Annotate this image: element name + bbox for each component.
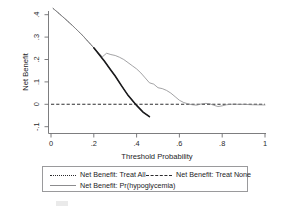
x-tick-label-1: .2 <box>91 139 97 148</box>
x-tick-label-5: 1 <box>263 139 267 148</box>
y-axis-title: Net Benefit <box>21 52 30 90</box>
y-tick-label-2: .2 <box>32 56 41 62</box>
x-tick-label-4: .8 <box>219 139 225 148</box>
x-tick-label-3: .6 <box>176 139 182 148</box>
data-series-group <box>51 8 265 116</box>
legend-label-treat-none: Net Benefit: Treat None <box>176 171 251 179</box>
y-tick-label-5: -.1 <box>32 122 41 131</box>
legend-key-dashed-icon <box>146 172 172 179</box>
legend-key-dotted-icon <box>50 172 76 179</box>
decision-curve-figure: .4 .3 .2 .1 0 -.1 Net Benefit 0 .2 .4 .6… <box>0 0 284 209</box>
axes-frame <box>49 11 267 134</box>
x-axis-tick-labels: 0 .2 .4 .6 .8 1 <box>49 139 267 148</box>
y-tick-label-4: 0 <box>32 102 41 106</box>
legend-item-model: Net Benefit: Pr(hypoglycemia) <box>50 180 175 191</box>
legend-label-model: Net Benefit: Pr(hypoglycemia) <box>80 182 175 190</box>
y-tick-label-3: .1 <box>32 79 41 85</box>
y-axis-ticks <box>45 15 49 127</box>
legend-item-treat-all: Net Benefit: Treat All <box>50 170 146 181</box>
x-tick-label-2: .4 <box>134 139 140 148</box>
series-model-line <box>53 8 265 106</box>
legend: Net Benefit: Treat All Net Benefit: Trea… <box>42 166 248 192</box>
legend-label-treat-all: Net Benefit: Treat All <box>80 171 146 179</box>
caption-strip <box>56 199 242 208</box>
x-tick-label-0: 0 <box>49 139 53 148</box>
x-axis-title: Threshold Probability <box>121 152 193 161</box>
caption-swatch <box>56 201 68 206</box>
y-tick-label-1: .3 <box>32 34 41 40</box>
y-axis-tick-labels: .4 .3 .2 .1 0 -.1 <box>32 12 41 131</box>
legend-key-solid-icon <box>50 182 76 189</box>
y-tick-label-0: .4 <box>32 12 41 18</box>
legend-item-treat-none: Net Benefit: Treat None <box>146 170 251 181</box>
series-treat-all-line <box>53 8 149 116</box>
x-axis-ticks <box>51 134 265 138</box>
